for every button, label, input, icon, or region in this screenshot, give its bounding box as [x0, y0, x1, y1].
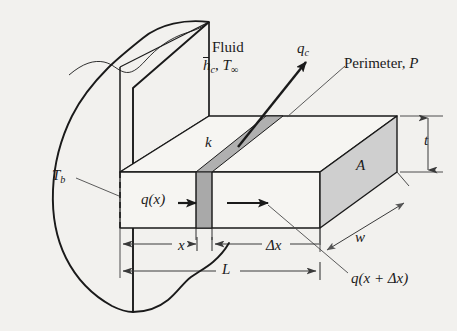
thickness-label: t — [424, 133, 428, 149]
fin-heat-transfer-diagram: Fluid hc, T∞ qc Perimeter, P k A t Tb q(… — [0, 0, 457, 331]
fin-width-label: w — [355, 230, 365, 246]
fluid-properties-label: hc, T∞ — [203, 58, 238, 76]
conduction-in-label: q(x) — [141, 192, 165, 208]
width-ext-line-upper — [397, 172, 409, 186]
conduction-out-label: q(x + Δx) — [351, 271, 408, 287]
base-temperature-label: Tb — [52, 168, 65, 186]
element-strip-front-face — [196, 172, 212, 228]
overbar — [203, 57, 209, 58]
element-width-label: Δx — [266, 238, 281, 254]
h-bar-symbol: h — [203, 58, 211, 74]
perimeter-label: Perimeter, P — [344, 56, 418, 72]
convective-heat-rate-label: qc — [297, 41, 309, 59]
thermal-conductivity-label: k — [205, 135, 212, 151]
fluid-label: Fluid — [212, 40, 244, 56]
distance-x-label: x — [178, 238, 185, 254]
fin-length-label: L — [222, 262, 230, 278]
cross-sectional-area-label: A — [356, 158, 365, 174]
